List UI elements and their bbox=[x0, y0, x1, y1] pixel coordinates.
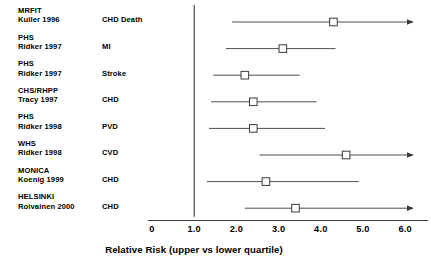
ci-row bbox=[245, 204, 413, 212]
study-author: Roivainen 2000 bbox=[18, 202, 94, 211]
study-identity: PHSRidker 1997 bbox=[18, 33, 94, 52]
study-name: PHS bbox=[18, 33, 94, 42]
study-identity: PHSRidker 1998 bbox=[18, 112, 94, 131]
x-axis-tick-label: 5.0 bbox=[356, 224, 369, 234]
point-estimate-marker bbox=[241, 71, 249, 79]
forest-plot: MRFITKuller 1996CHD DeathPHSRidker 1997M… bbox=[0, 0, 431, 273]
point-estimate-marker bbox=[249, 98, 257, 106]
study-outcome: CHD Death bbox=[102, 15, 143, 24]
study-outcome: PVD bbox=[102, 122, 118, 131]
study-author: Koenig 1999 bbox=[18, 175, 94, 184]
ci-row bbox=[209, 125, 325, 133]
study-author: Ridker 1997 bbox=[18, 42, 94, 51]
point-estimate-marker bbox=[330, 18, 338, 26]
x-axis-tick-label: 4.0 bbox=[314, 224, 327, 234]
x-axis-tick-label: 2.0 bbox=[230, 224, 243, 234]
study-author: Tracy 1997 bbox=[18, 95, 94, 104]
study-identity: HELSINKIRoivainen 2000 bbox=[18, 192, 94, 211]
study-identity: PHSRidker 1997 bbox=[18, 59, 94, 78]
ci-row bbox=[213, 71, 300, 79]
x-axis-tick-label: 1.0 bbox=[188, 224, 201, 234]
study-name: WHS bbox=[18, 139, 94, 148]
study-identity: WHSRidker 1998 bbox=[18, 139, 94, 158]
x-axis-tick-label: 6.0 bbox=[399, 224, 412, 234]
study-row: PHSRidker 1998PVD bbox=[18, 112, 190, 132]
study-label-column: MRFITKuller 1996CHD DeathPHSRidker 1997M… bbox=[0, 0, 190, 225]
study-outcome: CHD bbox=[102, 95, 119, 104]
x-axis-tick-label: 0 bbox=[149, 224, 154, 234]
x-axis-title: Relative Risk (upper vs lower quartile) bbox=[105, 244, 283, 255]
study-identity: MRFITKuller 1996 bbox=[18, 6, 94, 25]
study-identity: CHS/RHPPTracy 1997 bbox=[18, 86, 94, 105]
ci-row bbox=[232, 18, 413, 26]
study-row: PHSRidker 1997Stroke bbox=[18, 59, 190, 79]
ci-row bbox=[260, 151, 413, 159]
study-outcome: MI bbox=[102, 42, 111, 51]
study-row: CHS/RHPPTracy 1997CHD bbox=[18, 86, 190, 106]
ci-row bbox=[207, 178, 359, 186]
x-axis-tick-label: 3.0 bbox=[272, 224, 285, 234]
point-estimate-marker bbox=[292, 204, 300, 212]
study-name: HELSINKI bbox=[18, 192, 94, 201]
ci-row bbox=[211, 98, 316, 106]
point-estimate-marker bbox=[342, 151, 350, 159]
study-author: Ridker 1997 bbox=[18, 69, 94, 78]
study-row: MRFITKuller 1996CHD Death bbox=[18, 6, 190, 26]
ci-row bbox=[226, 45, 336, 53]
study-outcome: Stroke bbox=[102, 69, 126, 78]
study-name: CHS/RHPP bbox=[18, 86, 94, 95]
study-row: MONICAKoenig 1999CHD bbox=[18, 166, 190, 186]
study-row: PHSRidker 1997MI bbox=[18, 33, 190, 53]
study-identity: MONICAKoenig 1999 bbox=[18, 166, 94, 185]
study-outcome: CVD bbox=[102, 148, 118, 157]
study-author: Kuller 1996 bbox=[18, 15, 94, 24]
study-row: HELSINKIRoivainen 2000CHD bbox=[18, 192, 190, 212]
study-name: MONICA bbox=[18, 166, 94, 175]
study-outcome: CHD bbox=[102, 202, 119, 211]
point-estimate-marker bbox=[262, 178, 270, 186]
study-author: Ridker 1998 bbox=[18, 122, 94, 131]
study-name: PHS bbox=[18, 59, 94, 68]
study-row: WHSRidker 1998CVD bbox=[18, 139, 190, 159]
study-author: Ridker 1998 bbox=[18, 148, 94, 157]
study-name: PHS bbox=[18, 112, 94, 121]
point-estimate-marker bbox=[249, 125, 257, 133]
point-estimate-marker bbox=[279, 45, 287, 53]
study-outcome: CHD bbox=[102, 175, 119, 184]
study-name: MRFIT bbox=[18, 6, 94, 15]
